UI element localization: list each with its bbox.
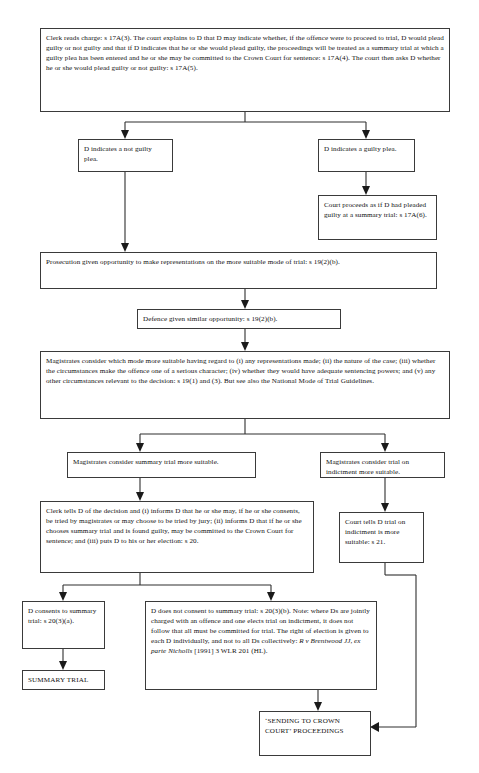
node-guilty-plea: D indicates a guilty plea. <box>318 139 415 172</box>
node-prosecution-representations: Prosecution given opportunity to make re… <box>40 252 437 289</box>
node-indictment-more-suitable: Magistrates consider trial on indictment… <box>320 452 445 478</box>
not-consent-text-tail: [1991] 3 WLR 201 (HL). <box>192 647 267 655</box>
node-not-guilty-plea: D indicates a not guilty plea. <box>78 139 173 172</box>
node-magistrates-consider-mode: Magistrates consider which mode more sui… <box>40 351 450 419</box>
node-court-tells-d-indictment: Court tells D trial on indictment is mor… <box>339 512 424 563</box>
node-d-does-not-consent: D does not consent to summary trial: s 2… <box>145 601 377 690</box>
node-d-consents-summary: D consents to summary trial: s 20(3)(a). <box>22 601 105 649</box>
node-clerk-tells-d-decision: Clerk tells D of the decision and (i) in… <box>40 501 314 573</box>
node-summary-trial: SUMMARY TRIAL <box>22 670 105 690</box>
node-defence-opportunity: Defence given similar opportunity: s 19(… <box>137 309 341 329</box>
node-court-proceeds-as-guilty: Court proceeds as if D had pleaded guilt… <box>318 195 437 240</box>
node-summary-more-suitable: Magistrates consider summary trial more … <box>67 452 256 478</box>
node-sending-to-crown-court: ‘SENDING TO CROWN COURT’ PROCEEDINGS <box>259 711 371 756</box>
node-clerk-reads-charge: Clerk reads charge: s 17A(3). The court … <box>40 28 450 112</box>
flowchart-canvas: Clerk reads charge: s 17A(3). The court … <box>0 0 479 773</box>
